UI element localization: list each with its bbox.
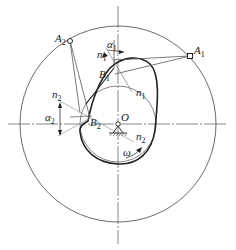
pivot-a2 [68, 39, 73, 44]
label-o: O [121, 111, 129, 123]
label-n1-bottom: n1 [136, 86, 146, 101]
label-omega: ω [123, 146, 131, 158]
normal-line-n1 [106, 48, 132, 92]
cam-center-joint [116, 122, 120, 126]
label-n2-left: n2 [52, 88, 62, 103]
follower-arm-2b [70, 41, 90, 118]
diagram-canvas: A1 A2 B1 B2 n1 n1 n2 n2 α1 α2 O ω [0, 0, 236, 250]
cam-diagram: A1 A2 B1 B2 n1 n1 n2 n2 α1 α2 O ω [0, 0, 236, 250]
pivot-a1 [188, 54, 193, 59]
label-b2: B2 [90, 116, 101, 131]
label-alpha1: α1 [107, 38, 117, 53]
label-n2-right: n2 [136, 130, 146, 145]
velocity-line-b2 [58, 118, 90, 136]
cam-profile [80, 58, 158, 164]
alpha1-arrowhead [119, 50, 124, 54]
follower-arm-2a [70, 41, 80, 113]
alpha2-arrowhead-down [58, 130, 62, 136]
follower-arm-1a [114, 56, 190, 60]
label-a1: A1 [193, 44, 205, 59]
omega-arrowhead [136, 147, 142, 153]
label-n1-top: n1 [97, 48, 107, 63]
